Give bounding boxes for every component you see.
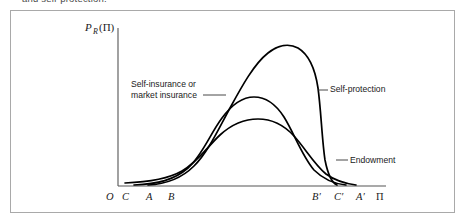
figure-page: and self-protection. P R (Π) O C A B B′ … (0, 0, 467, 223)
caption-above-figure: and self-protection. (0, 0, 467, 8)
caption-text: and self-protection. (22, 0, 107, 4)
figure-frame (10, 10, 455, 213)
